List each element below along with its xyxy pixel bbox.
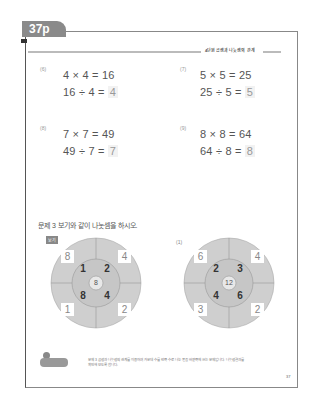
inner-number: 6 bbox=[235, 290, 245, 301]
sub-problem-label: (1) bbox=[176, 239, 182, 245]
problem-number: (6) bbox=[40, 66, 46, 72]
inner-number: 2 bbox=[102, 263, 112, 274]
teacher-tip-badge bbox=[40, 358, 68, 367]
page-number: 37 bbox=[286, 374, 290, 379]
tab-marker bbox=[21, 39, 27, 43]
teacher-note: 문제 3 곱셈과 나눗셈의 관계를 이용하여 가운데 수를 안쪽 수로 나눈 몫… bbox=[88, 358, 248, 368]
center-number: 8 bbox=[89, 279, 103, 286]
division-equation: 64 ÷ 8 = 8 bbox=[200, 145, 255, 157]
division-wheel-problem-1: 12 2 3 4 6 6 4 3 2 bbox=[183, 237, 275, 329]
header-rule-end bbox=[263, 51, 281, 53]
page-tab: 37p bbox=[22, 21, 66, 37]
multiplication-equation: 7 × 7 = 49 bbox=[63, 128, 115, 140]
division-wheel-example: 8 1 2 8 4 8 4 1 2 bbox=[50, 237, 142, 329]
problem-number: (7) bbox=[180, 66, 186, 72]
inner-number: 1 bbox=[78, 263, 88, 274]
division-equation: 16 ÷ 4 = 4 bbox=[63, 86, 118, 98]
division-left: 16 ÷ 4 = bbox=[63, 86, 108, 98]
division-left: 25 ÷ 5 = bbox=[200, 86, 245, 98]
page-frame bbox=[25, 31, 298, 388]
section-question: 문제 3 보기와 같이 나눗셈을 하시오. bbox=[38, 220, 138, 230]
header-rule bbox=[28, 51, 201, 53]
problem-number: (9) bbox=[180, 125, 186, 131]
division-answer[interactable]: 8 bbox=[245, 145, 255, 157]
outer-answer-box[interactable]: 4 bbox=[251, 250, 264, 263]
outer-answer-box[interactable]: 3 bbox=[194, 303, 207, 316]
outer-answer-box[interactable]: 2 bbox=[118, 303, 131, 316]
inner-number: 2 bbox=[211, 263, 221, 274]
inner-number: 4 bbox=[102, 290, 112, 301]
division-equation: 49 ÷ 7 = 7 bbox=[63, 145, 118, 157]
outer-answer-box[interactable]: 1 bbox=[61, 303, 74, 316]
division-answer[interactable]: 5 bbox=[245, 86, 255, 98]
outer-answer-box[interactable]: 6 bbox=[194, 250, 207, 263]
problem-number: (8) bbox=[40, 125, 46, 131]
chapter-title: 4단원 곱셈과 나눗셈의 관계 bbox=[205, 47, 255, 53]
division-left: 64 ÷ 8 = bbox=[200, 145, 245, 157]
division-left: 49 ÷ 7 = bbox=[63, 145, 108, 157]
multiplication-equation: 5 × 5 = 25 bbox=[200, 69, 252, 81]
multiplication-equation: 4 × 4 = 16 bbox=[63, 69, 115, 81]
inner-number: 3 bbox=[235, 263, 245, 274]
center-number: 12 bbox=[222, 279, 236, 286]
division-answer[interactable]: 4 bbox=[108, 86, 118, 98]
outer-answer-box[interactable]: 2 bbox=[251, 303, 264, 316]
outer-answer-box[interactable]: 8 bbox=[61, 250, 74, 263]
inner-number: 8 bbox=[78, 290, 88, 301]
division-answer[interactable]: 7 bbox=[108, 145, 118, 157]
division-equation: 25 ÷ 5 = 5 bbox=[200, 86, 255, 98]
multiplication-equation: 8 × 8 = 64 bbox=[200, 128, 252, 140]
outer-answer-box[interactable]: 4 bbox=[118, 250, 131, 263]
inner-number: 4 bbox=[211, 290, 221, 301]
